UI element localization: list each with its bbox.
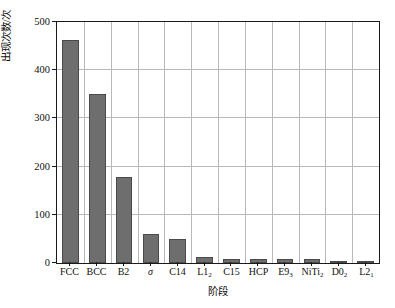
x-axis-tick-mark — [204, 262, 205, 266]
y-axis-tick-label: 100 — [10, 208, 50, 219]
x-axis-tick-mark — [284, 262, 285, 266]
bar-cell — [352, 22, 379, 263]
x-axis-tick-mark — [123, 262, 124, 266]
y-axis-tick-mark — [52, 21, 56, 22]
x-axis-tick-label: σ — [137, 266, 164, 279]
bar-cell — [325, 22, 352, 263]
bar — [143, 234, 160, 263]
bar — [89, 94, 106, 263]
x-axis-tick-label: NiTi2 — [299, 266, 326, 279]
x-axis-tick-label: FCC — [56, 266, 83, 279]
bar-cell — [298, 22, 325, 263]
x-axis-label: 阶段 — [56, 283, 380, 298]
x-axis-tick-label: L21 — [353, 266, 380, 279]
x-axis-tick-label: HCP — [245, 266, 272, 279]
y-axis-tick-mark — [52, 262, 56, 263]
y-axis-tick-label: 500 — [10, 16, 50, 27]
x-axis-tick-label: C14 — [164, 266, 191, 279]
bar-cell — [245, 22, 272, 263]
bar-cell — [191, 22, 218, 263]
y-axis-tick-mark — [52, 69, 56, 70]
x-axis-tick-label: L12 — [191, 266, 218, 279]
y-axis-tick-label: 0 — [10, 257, 50, 268]
bar-cell — [57, 22, 84, 263]
bar-cell — [84, 22, 111, 263]
bar — [116, 177, 133, 263]
x-axis-tick-mark — [365, 262, 366, 266]
y-axis-tick-mark — [52, 214, 56, 215]
y-axis-label: 出现次数/次 — [0, 0, 13, 96]
bar-cell — [111, 22, 138, 263]
x-axis-tick-label: B2 — [110, 266, 137, 279]
x-axis-tick-mark — [69, 262, 70, 266]
bar-cell — [218, 22, 245, 263]
bar-cell — [272, 22, 299, 263]
bar — [62, 40, 79, 263]
x-axis-tick-mark — [150, 262, 151, 266]
y-axis-tick-label: 200 — [10, 160, 50, 171]
x-axis-tick-label: E93 — [272, 266, 299, 279]
bar — [169, 239, 186, 263]
x-axis-tick-mark — [177, 262, 178, 266]
x-axis-tick-label: C15 — [218, 266, 245, 279]
bar-chart-figure: 0100200300400500 出现次数/次 FCCBCCB2σC14L12C… — [0, 0, 395, 308]
bar-series — [57, 22, 379, 263]
y-axis-tick-label: 300 — [10, 112, 50, 123]
y-axis-tick-mark — [52, 166, 56, 167]
x-axis-tick-mark — [257, 262, 258, 266]
x-axis-tick-mark — [311, 262, 312, 266]
bar-cell — [164, 22, 191, 263]
bar-cell — [137, 22, 164, 263]
y-axis-tick-label: 400 — [10, 64, 50, 75]
plot-area — [56, 21, 380, 264]
x-axis-tick-label: BCC — [83, 266, 110, 279]
x-axis-tick-mark — [230, 262, 231, 266]
x-axis-tick-mark — [338, 262, 339, 266]
x-axis-tick-labels: FCCBCCB2σC14L12C15HCPE93NiTi2D02L21 — [56, 266, 380, 279]
x-axis-tick-label: D02 — [326, 266, 353, 279]
y-axis-tick-mark — [52, 117, 56, 118]
x-axis-tick-mark — [96, 262, 97, 266]
